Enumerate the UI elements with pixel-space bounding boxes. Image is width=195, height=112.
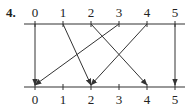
top-tick-label: 4 xyxy=(144,5,151,20)
mapping-diagram: 4. 012345 012345 xyxy=(0,0,195,112)
arrow-3-to-0 xyxy=(35,24,119,85)
top-tick-label: 2 xyxy=(88,5,95,20)
bottom-number-line: 012345 xyxy=(24,84,185,107)
top-tick-label: 5 xyxy=(172,5,179,20)
top-tick-label: 1 xyxy=(60,5,67,20)
top-number-line: 012345 xyxy=(24,5,185,27)
top-tick-label: 3 xyxy=(116,5,123,20)
bottom-tick-label: 2 xyxy=(88,92,95,107)
mapping-arrows xyxy=(35,24,175,85)
bottom-tick-label: 5 xyxy=(172,92,179,107)
bottom-tick-label: 3 xyxy=(116,92,123,107)
diagram-canvas: 4. 012345 012345 xyxy=(0,0,195,112)
bottom-tick-label: 4 xyxy=(144,92,151,107)
bottom-tick-label: 0 xyxy=(32,92,39,107)
exercise-number: 4. xyxy=(6,5,16,20)
top-tick-label: 0 xyxy=(32,5,39,20)
bottom-tick-label: 1 xyxy=(60,92,67,107)
